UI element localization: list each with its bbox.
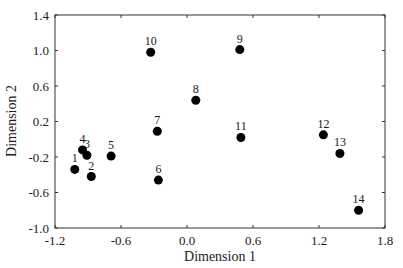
- data-point-label: 12: [317, 117, 329, 131]
- x-axis: -1.2-0.60.00.61.21.8: [45, 15, 393, 248]
- data-point-label: 13: [334, 135, 346, 149]
- y-axis: -1.0-0.6-0.20.20.61.01.4: [28, 8, 385, 236]
- scatter-chart: -1.2-0.60.00.61.21.8 -1.0-0.6-0.20.20.61…: [0, 0, 403, 268]
- y-tick-label: -0.6: [28, 185, 49, 200]
- data-point: [319, 130, 328, 139]
- data-point-label: 9: [237, 32, 243, 46]
- data-point-label: 14: [353, 192, 365, 206]
- y-tick-label: -0.2: [28, 150, 49, 165]
- data-point: [236, 133, 245, 142]
- x-axis-title: Dimension 1: [184, 249, 256, 264]
- x-tick-label: -0.6: [111, 233, 132, 248]
- data-point-label: 2: [88, 159, 94, 173]
- y-tick-label: 0.2: [33, 114, 49, 129]
- data-point: [154, 176, 163, 185]
- data-point-label: 7: [154, 113, 160, 127]
- data-point-label: 5: [108, 138, 114, 152]
- plot-frame: [55, 15, 385, 228]
- data-point-label: 11: [235, 119, 247, 133]
- data-point-label: 8: [193, 82, 199, 96]
- data-point: [354, 206, 363, 215]
- data-point: [107, 152, 116, 161]
- data-point: [335, 149, 344, 158]
- data-point: [70, 165, 79, 174]
- y-tick-label: -1.0: [28, 221, 49, 236]
- data-point: [153, 127, 162, 136]
- data-point-label: 10: [145, 34, 157, 48]
- x-tick-label: 1.8: [377, 233, 393, 248]
- y-tick-label: 0.6: [33, 79, 50, 94]
- data-point-label: 1: [72, 151, 78, 165]
- data-point: [191, 96, 200, 105]
- data-point: [87, 172, 96, 181]
- data-point-label: 6: [155, 162, 161, 176]
- data-point: [235, 45, 244, 54]
- x-tick-label: 1.2: [311, 233, 327, 248]
- x-tick-label: 0.0: [179, 233, 195, 248]
- data-point: [78, 145, 87, 154]
- data-point-label: 4: [80, 132, 86, 146]
- data-points: 1234567891011121314: [70, 32, 364, 215]
- data-point: [146, 48, 155, 57]
- y-axis-title: Dimension 2: [4, 85, 19, 157]
- y-tick-label: 1.0: [33, 43, 49, 58]
- x-tick-label: 0.6: [245, 233, 262, 248]
- y-tick-label: 1.4: [33, 8, 50, 23]
